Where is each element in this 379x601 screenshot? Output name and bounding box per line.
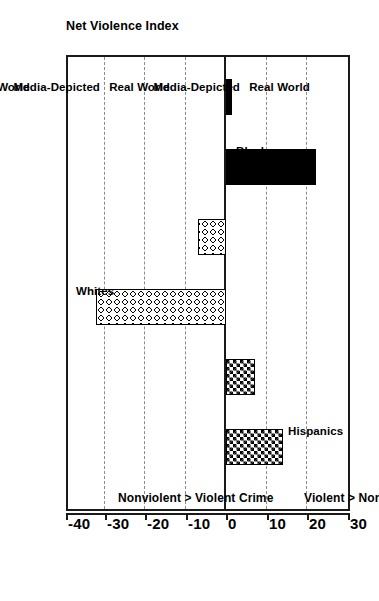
group-label-blacks: Blacks [236, 145, 274, 157]
bar-hispanics-media-depicted[interactable] [226, 429, 283, 465]
bar-whites-media-depicted[interactable] [96, 289, 226, 325]
group-label-hispanics: Hispanics [288, 425, 343, 437]
tick-label-neg30: -30 [106, 514, 128, 531]
bars-layer [68, 57, 348, 509]
cat-label-hispanics-real-world: Real World [0, 81, 30, 93]
tick-label-10: 10 [268, 514, 285, 531]
tick-label-neg10: -10 [187, 514, 209, 531]
rotated-chart-stage-wrapper: Net Violence Index [0, 0, 379, 601]
tick-mark-neg30 [104, 513, 106, 520]
chart-stage: Net Violence Index [14, 21, 366, 581]
value-axis: 30 20 10 0 -10 -20 -30 -40 [66, 513, 350, 515]
tick-label-20: 20 [309, 514, 326, 531]
axis-title-violent-gt-nonviolent: Violent > Nonviolent Crime [304, 491, 379, 505]
tick-mark-neg10 [185, 513, 187, 520]
tick-label-neg20: -20 [147, 514, 169, 531]
axis-title-nonviolent-gt-violent: Nonviolent > Violent Crime [118, 491, 273, 505]
index-axis-title: Net Violence Index [66, 19, 179, 33]
tick-label-30: 30 [350, 514, 367, 531]
plot-area: Blacks Whites Hispanics [66, 55, 350, 511]
cat-label-blacks-real-world: Real World [249, 81, 310, 93]
chart-page: Net Violence Index [0, 0, 379, 601]
tick-label-neg40: -40 [68, 514, 90, 531]
bar-hispanics-real-world[interactable] [226, 359, 254, 395]
bar-whites-real-world[interactable] [197, 219, 225, 255]
group-label-whites: Whites [76, 285, 114, 297]
tick-label-0: 0 [228, 514, 237, 531]
cat-label-whites-real-world: Real World [109, 81, 170, 93]
